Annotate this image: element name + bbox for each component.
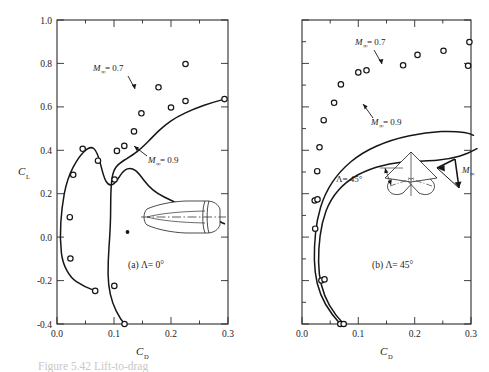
ytick-8: -0.4 bbox=[37, 320, 52, 330]
panel-b-caption: (b) Λ= 45° bbox=[372, 260, 414, 271]
data-point bbox=[68, 256, 73, 261]
swept-wing-planform bbox=[380, 152, 437, 196]
data-point bbox=[356, 70, 361, 75]
freestream-mach-label: M bbox=[461, 165, 470, 175]
ytick-3: 0.6 bbox=[40, 102, 52, 112]
data-point bbox=[313, 226, 318, 231]
data-point bbox=[67, 215, 72, 220]
data-point bbox=[122, 321, 127, 326]
ytick-2: 0.8 bbox=[40, 59, 52, 69]
data-point bbox=[183, 61, 188, 66]
x-axis-label: C bbox=[380, 345, 388, 357]
svg-text:M: M bbox=[354, 37, 363, 47]
svg-text:M: M bbox=[92, 63, 101, 73]
xtick-1: 0.0 bbox=[296, 329, 308, 339]
panel-a-y-ticklabels: 1.0 0.8 0.6 0.4 0.2 0.0 -0.2 -0.4 bbox=[37, 16, 52, 330]
data-point bbox=[95, 158, 100, 163]
panel-a-x-axis-title: C D bbox=[136, 345, 149, 360]
data-point bbox=[93, 288, 98, 293]
data-point bbox=[112, 177, 117, 182]
svg-text:M: M bbox=[147, 155, 156, 165]
panel-b: 0.0 0.1 0.2 0.3 C D bbox=[296, 20, 477, 360]
panel-a-y-ticks bbox=[57, 20, 228, 324]
data-point bbox=[315, 169, 320, 174]
data-point bbox=[322, 277, 327, 282]
data-point bbox=[321, 118, 326, 123]
panel-b-label-mach09: M ∞ = 0.9 bbox=[363, 104, 402, 129]
svg-text:= 0.9: = 0.9 bbox=[383, 117, 402, 127]
y-axis-label: C bbox=[18, 165, 26, 177]
data-point bbox=[465, 63, 470, 68]
freestream-mach-sub: ∞ bbox=[470, 170, 475, 177]
panel-a-x-ticks bbox=[57, 20, 228, 324]
svg-text:= 0.9: = 0.9 bbox=[160, 155, 179, 165]
data-point bbox=[122, 143, 127, 148]
panel-b-x-ticklabels: 0.0 0.1 0.2 0.3 bbox=[296, 329, 477, 339]
freestream-arrows: M ∞ bbox=[437, 159, 475, 188]
panel-a-label-mach07: M ∞ = 0.7 bbox=[92, 63, 136, 89]
panel-b-label-mach07: M ∞ = 0.7 bbox=[354, 37, 386, 64]
ytick-1: 1.0 bbox=[40, 16, 52, 26]
svg-text:M: M bbox=[370, 117, 379, 127]
xtick-3: 0.2 bbox=[165, 329, 177, 339]
panel-a-solid-dot bbox=[126, 230, 130, 234]
data-point bbox=[112, 283, 117, 288]
svg-text:= 0.7: = 0.7 bbox=[105, 63, 124, 73]
data-point bbox=[331, 100, 336, 105]
ytick-7: -0.2 bbox=[37, 276, 52, 286]
panel-a: 1.0 0.8 0.6 0.4 0.2 0.0 -0.2 -0.4 0.0 0.… bbox=[18, 16, 234, 360]
x-axis-sub: D bbox=[144, 353, 149, 360]
ytick-4: 0.4 bbox=[40, 146, 52, 156]
data-point bbox=[222, 96, 227, 101]
xtick-1: 0.0 bbox=[51, 329, 63, 339]
bottom-caption: Figure 5.42 Lift-to-drag bbox=[38, 360, 148, 372]
data-point bbox=[338, 82, 343, 87]
data-point bbox=[183, 98, 188, 103]
xtick-4: 0.3 bbox=[465, 329, 477, 339]
data-point bbox=[400, 63, 405, 68]
data-point bbox=[341, 321, 346, 326]
xtick-3: 0.2 bbox=[409, 329, 421, 339]
panel-b-sweep-label: Λ= 45° bbox=[336, 174, 363, 184]
x-axis-sub: D bbox=[388, 353, 393, 360]
panel-a-x-ticklabels: 0.0 0.1 0.2 0.3 bbox=[51, 329, 234, 339]
ytick-5: 0.2 bbox=[40, 189, 52, 199]
data-point bbox=[441, 48, 446, 53]
svg-text:Λ= 45°: Λ= 45° bbox=[336, 174, 363, 184]
straight-wing-planform bbox=[141, 201, 226, 233]
x-axis-label: C bbox=[136, 345, 144, 357]
data-point bbox=[71, 172, 76, 177]
data-point bbox=[168, 105, 173, 110]
panel-a-caption: (a) Λ= 0° bbox=[128, 260, 164, 271]
svg-text:= 0.7: = 0.7 bbox=[367, 37, 386, 47]
data-point bbox=[139, 111, 144, 116]
data-point bbox=[415, 52, 420, 57]
xtick-4: 0.3 bbox=[222, 329, 234, 339]
panel-b-curve-mach07 bbox=[314, 131, 473, 324]
panel-a-y-axis-title: C L bbox=[18, 165, 30, 180]
data-point bbox=[80, 146, 85, 151]
panel-a-markers-mach09 bbox=[112, 61, 189, 326]
xtick-2: 0.1 bbox=[352, 329, 364, 339]
data-point bbox=[156, 85, 161, 90]
panel-b-x-axis-title: C D bbox=[380, 345, 393, 360]
ytick-6: 0.0 bbox=[40, 233, 52, 243]
data-point bbox=[317, 145, 322, 150]
panel-a-frame bbox=[57, 20, 228, 324]
figure-container: 1.0 0.8 0.6 0.4 0.2 0.0 -0.2 -0.4 0.0 0.… bbox=[0, 0, 489, 372]
data-point bbox=[467, 39, 472, 44]
data-point bbox=[364, 68, 369, 73]
data-point bbox=[315, 197, 320, 202]
data-point bbox=[131, 129, 136, 134]
y-axis-sub: L bbox=[26, 173, 30, 180]
xtick-2: 0.1 bbox=[108, 329, 120, 339]
data-point bbox=[114, 148, 119, 153]
